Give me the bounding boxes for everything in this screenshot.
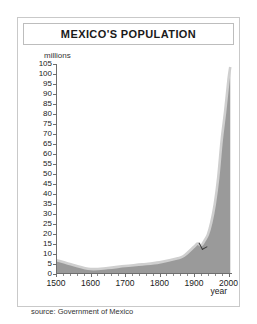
y-tick-mark [53,164,56,165]
y-tick-mark [53,204,56,205]
y-tick: 100 [56,74,57,75]
y-tick-label: 60 [43,149,52,158]
x-tick-label: 1700 [116,279,135,288]
y-tick-label: 45 [43,179,52,188]
x-minor-tick [70,274,71,276]
y-tick: 55 [56,164,57,165]
y-tick-mark [53,84,56,85]
y-tick-mark [53,264,56,265]
x-axis-line [56,273,232,274]
y-tick-mark [53,94,56,95]
y-tick-mark [53,134,56,135]
y-tick-label: 15 [43,239,52,248]
y-tick: 25 [56,224,57,225]
y-tick-label: 0 [48,269,52,278]
x-minor-tick [173,274,174,276]
y-tick: 10 [56,254,57,255]
y-tick-mark [53,144,56,145]
y-tick-label: 50 [43,169,52,178]
y-tick: 75 [56,124,57,125]
plot-area: 0510152025303540455055606570758085909510… [56,64,232,274]
y-tick: 90 [56,94,57,95]
y-tick: 65 [56,144,57,145]
x-minor-tick [139,274,140,276]
x-tick: 1700 [125,273,126,274]
x-tick: 2000 [229,273,230,274]
y-tick-label: 85 [43,99,52,108]
area-edge-path [56,67,230,269]
y-tick-mark [53,194,56,195]
y-tick-label: 35 [43,199,52,208]
x-tick: 1900 [194,273,195,274]
x-tick-mark [194,274,195,277]
y-tick-label: 100 [39,69,52,78]
y-tick: 70 [56,134,57,135]
y-tick: 105 [56,64,57,65]
y-tick-mark [53,104,56,105]
y-tick-mark [53,214,56,215]
x-tick-mark [160,274,161,277]
x-tick: 1600 [91,273,92,274]
y-tick-mark [53,254,56,255]
y-tick: 35 [56,204,57,205]
x-minor-tick [208,274,209,276]
x-tick-mark [125,274,126,277]
x-minor-tick [215,274,216,276]
y-tick-mark [53,64,56,65]
x-tick-mark [229,274,230,277]
y-tick: 95 [56,84,57,85]
x-tick-label: 1500 [47,279,66,288]
chart-title-band: MEXICO'S POPULATION [23,23,234,45]
x-minor-tick [118,274,119,276]
y-tick-label: 65 [43,139,52,148]
y-tick-mark [53,234,56,235]
x-minor-tick [77,274,78,276]
y-tick-label: 10 [43,249,52,258]
x-minor-tick [111,274,112,276]
y-tick-label: 70 [43,129,52,138]
y-tick-label: 5 [48,259,52,268]
y-tick: 20 [56,234,57,235]
y-tick: 5 [56,264,57,265]
source-note: source: Government of Mexico [31,307,133,316]
y-tick: 40 [56,194,57,195]
y-tick-mark [53,224,56,225]
y-tick: 45 [56,184,57,185]
x-axis-label: year [210,286,227,296]
x-minor-tick [166,274,167,276]
y-tick-mark [53,244,56,245]
x-minor-tick [146,274,147,276]
x-minor-tick [201,274,202,276]
y-tick: 15 [56,244,57,245]
x-tick: 1500 [56,273,57,274]
y-tick: 80 [56,114,57,115]
y-tick-label: 75 [43,119,52,128]
x-minor-tick [153,274,154,276]
y-tick-label: 105 [39,59,52,68]
y-tick: 30 [56,214,57,215]
y-tick-label: 90 [43,89,52,98]
y-tick-mark [53,174,56,175]
x-minor-tick [63,274,64,276]
x-minor-tick [180,274,181,276]
y-tick-label: 95 [43,79,52,88]
y-tick-mark [53,114,56,115]
x-tick-label: 1600 [81,279,100,288]
x-minor-tick [97,274,98,276]
y-tick-label: 80 [43,109,52,118]
page-title: MEXICO'S POPULATION [61,28,196,40]
y-tick-mark [53,74,56,75]
y-tick-label: 20 [43,229,52,238]
y-tick-label: 40 [43,189,52,198]
x-minor-tick [187,274,188,276]
y-tick-label: 55 [43,159,52,168]
y-axis-line [56,64,57,274]
x-tick-mark [91,274,92,277]
y-tick-label: 25 [43,219,52,228]
y-tick: 50 [56,174,57,175]
x-tick-mark [56,274,57,277]
x-minor-tick [104,274,105,276]
y-tick: 85 [56,104,57,105]
x-tick-label: 1900 [185,279,204,288]
y-tick-label: 30 [43,209,52,218]
